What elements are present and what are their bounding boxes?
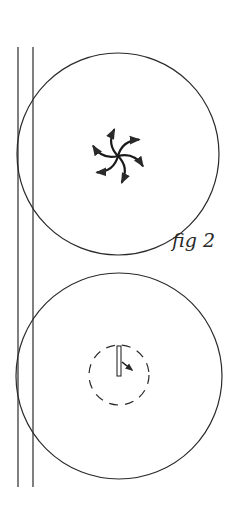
figure-2-diagram: fig 2 [0, 0, 227, 518]
figure-label: fig 2 [170, 229, 215, 251]
pinwheel-vortex-icon [92, 130, 144, 182]
bar-arrow-icon [122, 362, 132, 370]
bar-element [117, 346, 121, 376]
